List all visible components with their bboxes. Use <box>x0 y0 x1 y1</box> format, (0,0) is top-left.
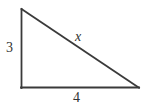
right-triangle-figure: 3 x 4 <box>0 0 145 107</box>
side-label-hypotenuse: x <box>75 30 81 44</box>
hypotenuse-line <box>22 9 140 88</box>
side-label-vertical-leg: 3 <box>6 41 13 55</box>
side-label-horizontal-leg: 4 <box>73 91 80 105</box>
